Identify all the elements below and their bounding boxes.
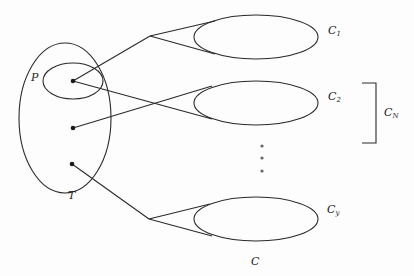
label-c: C <box>251 256 259 267</box>
point-middle <box>71 126 76 131</box>
map-line-p-to-c2 <box>73 81 212 119</box>
map-line-p-to-c1 <box>73 36 150 81</box>
map-line-mid-to-c2 <box>73 86 212 128</box>
label-t: T <box>68 190 75 201</box>
label-cn: CN <box>384 107 399 120</box>
label-p: P <box>31 72 38 83</box>
cluster-bracket <box>362 83 376 143</box>
ellipsis-dot-2 <box>260 156 263 159</box>
map-line-low-to-cy <box>72 164 149 219</box>
label-c2: C2 <box>328 91 341 104</box>
cy-tangent-top <box>149 204 210 219</box>
label-cy: Cy <box>327 204 339 217</box>
diagram-canvas: P T C C1 C2 Cy CN <box>0 0 414 276</box>
label-c1-sub: 1 <box>336 30 340 38</box>
label-cn-sub: N <box>392 112 398 120</box>
point-lower <box>70 162 75 167</box>
label-c2-sub: 2 <box>336 96 340 104</box>
set-t-ellipse <box>19 43 111 193</box>
diagram-svg <box>0 0 414 276</box>
cy-tangent-bottom <box>149 219 212 236</box>
point-in-p <box>71 79 76 84</box>
ellipsis-dot-3 <box>260 169 263 172</box>
label-cy-sub: y <box>335 209 339 217</box>
label-c1: C1 <box>328 25 341 38</box>
c1-tangent-bottom <box>150 36 215 54</box>
ellipsis-dot-1 <box>260 144 263 147</box>
cluster-cy-ellipse <box>194 197 318 241</box>
c1-tangent-top <box>150 21 215 36</box>
cluster-c2-ellipse <box>194 81 318 125</box>
